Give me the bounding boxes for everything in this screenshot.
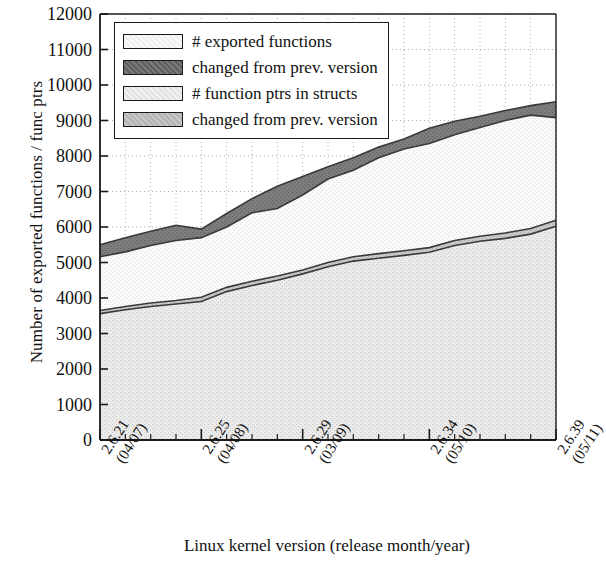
x-tick-label: 2.6.29(03/09)	[301, 411, 354, 467]
legend-swatch	[123, 60, 183, 75]
x-tick-label: 2.6.39(05/11)	[554, 411, 606, 466]
legend-item: changed from prev. version	[123, 106, 378, 132]
legend-swatch	[123, 112, 183, 127]
legend-label: changed from prev. version	[192, 59, 378, 76]
chart-legend: # exported functionschanged from prev. v…	[114, 22, 389, 139]
legend-item: # function ptrs in structs	[123, 80, 378, 106]
legend-label: # function ptrs in structs	[192, 85, 357, 102]
legend-item: changed from prev. version	[123, 54, 378, 80]
legend-label: # exported functions	[192, 33, 332, 50]
x-tick-label: 2.6.21(04/07)	[98, 411, 151, 467]
x-tick-label: 2.6.25(04/08)	[199, 411, 252, 467]
legend-swatch	[123, 34, 183, 49]
x-axis-title: Linux kernel version (release month/year…	[96, 536, 558, 556]
legend-label: changed from prev. version	[192, 111, 378, 128]
legend-swatch	[123, 86, 183, 101]
legend-item: # exported functions	[123, 28, 378, 54]
x-tick-label: 2.6.34(05/10)	[427, 411, 480, 467]
